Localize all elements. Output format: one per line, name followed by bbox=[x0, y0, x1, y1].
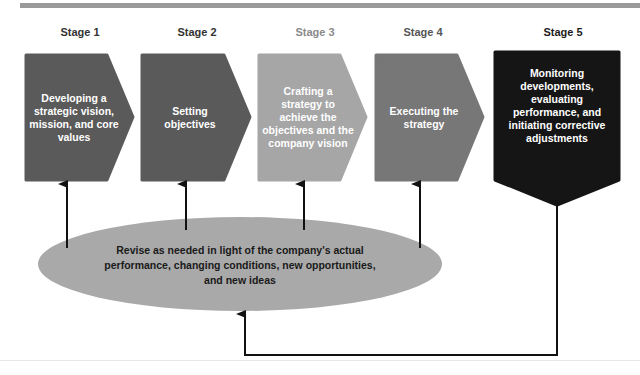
stage-1-text: Developing a strategic vision, mission, … bbox=[28, 55, 120, 180]
stage-2-text: Setting objectives bbox=[146, 55, 234, 180]
stage-4-text: Executing the strategy bbox=[380, 55, 468, 180]
stage-3-text: Crafting a strategy to achieve the objec… bbox=[262, 55, 354, 180]
bottom-divider bbox=[0, 360, 640, 361]
stage-5-text: Monitoring developments, evaluating perf… bbox=[505, 55, 609, 180]
feedback-text: Revise as needed in light of the company… bbox=[95, 243, 385, 288]
